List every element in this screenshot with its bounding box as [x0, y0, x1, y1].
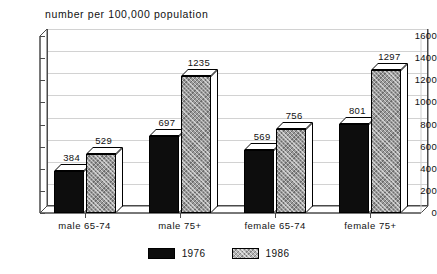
- bar-chart: number per 100,000 population 1600140012…: [0, 0, 437, 274]
- x-axis-category-label: male 75+: [125, 220, 235, 231]
- bar-female-65-74-1976: [244, 150, 274, 213]
- legend-label-1986: 1986: [266, 248, 290, 259]
- bar-value-label: 1235: [174, 57, 224, 68]
- bar-face: [371, 70, 401, 213]
- bar-male-75--1986: [181, 76, 211, 213]
- bars-layer: 38452969712355697568011297: [0, 0, 437, 274]
- bar-face: [244, 150, 274, 213]
- bar-male-65-74-1976: [54, 171, 84, 213]
- bar-side-face: [401, 63, 408, 213]
- bar-face: [339, 124, 369, 213]
- bar-value-label: 529: [79, 135, 129, 146]
- bar-face: [276, 129, 306, 213]
- x-axis-category-label: female 75+: [315, 220, 425, 231]
- bar-side-face: [211, 69, 218, 213]
- x-axis-tick-mark: [370, 213, 371, 218]
- x-axis-category-label: male 65-74: [30, 220, 140, 231]
- bar-side-face: [306, 122, 313, 213]
- x-axis-category-label: female 65-74: [220, 220, 330, 231]
- bar-male-75--1976: [149, 136, 179, 213]
- bar-value-label: 756: [269, 110, 319, 121]
- legend-label-1976: 1976: [182, 248, 206, 259]
- x-axis-tick-mark: [180, 213, 181, 218]
- bar-face: [86, 154, 116, 213]
- bar-value-label: 1297: [364, 51, 414, 62]
- bar-side-face: [116, 147, 123, 213]
- legend-swatch-1986: [232, 248, 259, 259]
- legend-swatch-1976: [148, 248, 175, 259]
- bar-face: [181, 76, 211, 213]
- bar-female-75--1976: [339, 124, 369, 213]
- chart-legend: 1976 1986: [0, 248, 437, 259]
- bar-female-65-74-1986: [276, 129, 306, 213]
- bar-face: [149, 136, 179, 213]
- bar-female-75--1986: [371, 70, 401, 213]
- x-axis-tick-mark: [85, 213, 86, 218]
- bar-male-65-74-1986: [86, 154, 116, 213]
- x-axis-tick-mark: [275, 213, 276, 218]
- legend-item-1976[interactable]: 1976: [148, 248, 206, 259]
- bar-face: [54, 171, 84, 213]
- legend-item-1986[interactable]: 1986: [232, 248, 290, 259]
